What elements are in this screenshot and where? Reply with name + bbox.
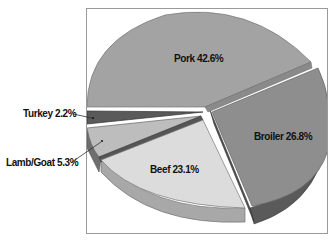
label-beef: Beef 23.1%: [150, 164, 199, 175]
leader-dot-turkey: [92, 117, 94, 119]
pie-chart: Pork 42.6% Broiler 26.8% Beef 23.1% Lamb…: [0, 0, 335, 245]
leader-dot-lamb-goat: [101, 140, 103, 142]
label-lamb-goat: Lamb/Goat 5.3%: [6, 157, 79, 168]
label-broiler: Broiler 26.8%: [254, 131, 313, 142]
label-turkey: Turkey 2.2%: [23, 108, 77, 119]
label-pork: Pork 42.6%: [174, 53, 224, 64]
